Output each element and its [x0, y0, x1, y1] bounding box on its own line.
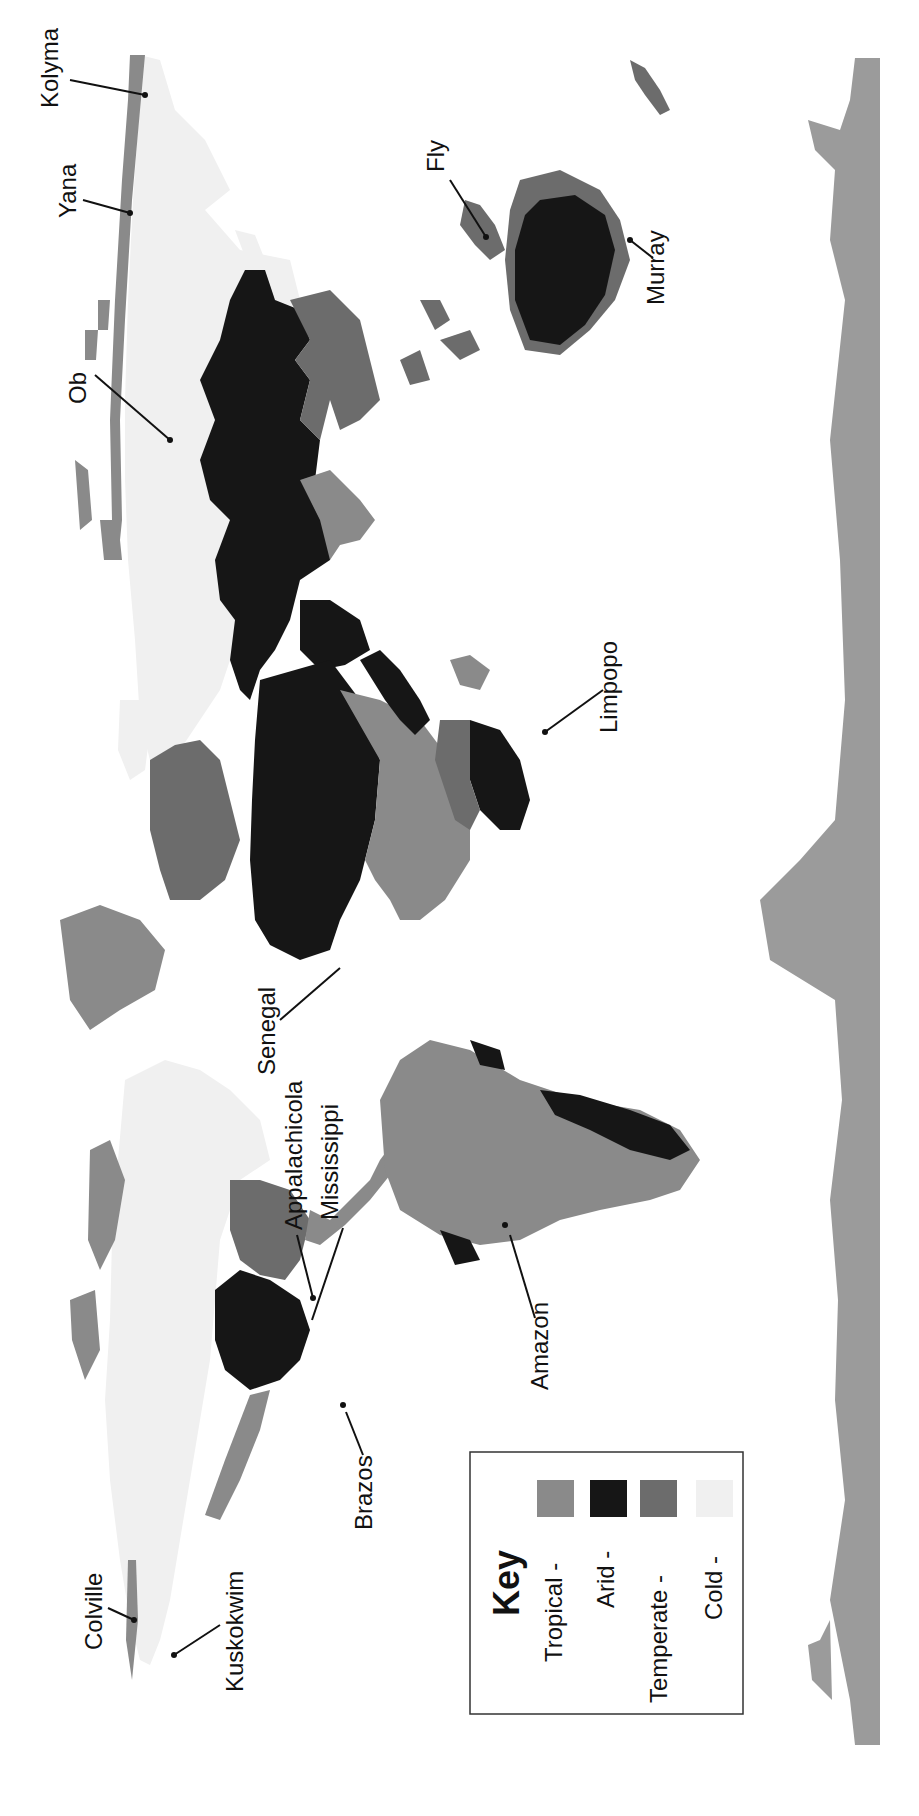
legend-swatch-temperate	[640, 1480, 677, 1517]
legend-swatch-arid	[590, 1480, 627, 1517]
kolyma-dot	[142, 92, 148, 98]
kuskokwim-leader	[174, 1625, 220, 1655]
amazon-dot	[502, 1222, 508, 1228]
label-yana: Yana	[54, 163, 81, 218]
limpopo-dot	[542, 729, 548, 735]
arabia-arid	[300, 600, 370, 670]
world-climate-map: Kolyma Yana Ob Fly Murray Limpopo Senega…	[0, 0, 919, 1816]
label-senegal: Senegal	[253, 987, 280, 1075]
label-colville: Colville	[80, 1573, 107, 1650]
legend-label-tropical: Tropical -	[540, 1563, 567, 1662]
africa-south-arid	[470, 720, 530, 830]
legend: Key Tropical - Arid - Temperate - Cold -	[470, 1452, 743, 1714]
indonesia	[400, 300, 480, 385]
appalachicola-leader	[297, 1235, 313, 1298]
senegal-leader	[280, 968, 340, 1020]
murray-dot	[627, 237, 633, 243]
legend-title: Key	[486, 1550, 527, 1616]
label-ob: Ob	[64, 372, 91, 404]
appalachicola-dot	[310, 1295, 316, 1301]
legend-swatch-tropical	[537, 1480, 574, 1517]
greenland	[60, 905, 165, 1030]
na-west-coast	[205, 1390, 270, 1520]
north-america-arid	[215, 1270, 310, 1390]
fly-dot	[483, 234, 489, 240]
label-mississippi: Mississippi	[316, 1104, 343, 1220]
label-kuskokwim: Kuskokwim	[221, 1571, 248, 1692]
label-amazon: Amazon	[526, 1302, 553, 1390]
brazos-leader	[346, 1412, 363, 1455]
east-asia-temperate	[290, 290, 380, 440]
legend-swatch-cold	[696, 1480, 733, 1517]
yana-dot	[127, 210, 133, 216]
ob-dot	[167, 437, 173, 443]
legend-label-cold: Cold -	[700, 1556, 727, 1620]
label-limpopo: Limpopo	[595, 641, 622, 733]
australia-arid	[515, 195, 615, 345]
label-kolyma: Kolyma	[36, 27, 63, 108]
madagascar	[450, 655, 490, 690]
legend-label-arid: Arid -	[592, 1551, 619, 1608]
antarctica	[760, 58, 880, 1745]
label-brazos: Brazos	[350, 1455, 377, 1530]
label-murray: Murray	[642, 230, 669, 305]
kuskokwim-dot	[171, 1652, 177, 1658]
colville-dot	[131, 1617, 137, 1623]
label-fly: Fly	[422, 140, 449, 172]
brazos-dot	[340, 1402, 346, 1408]
antarctic-peninsula	[808, 1620, 832, 1700]
legend-label-temperate: Temperate -	[645, 1575, 672, 1703]
new-zealand	[630, 60, 670, 115]
europe-temperate	[150, 740, 240, 900]
label-appalachicola: Appalachicola	[280, 1080, 307, 1230]
